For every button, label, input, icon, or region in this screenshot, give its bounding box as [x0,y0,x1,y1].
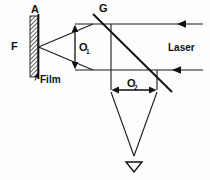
cone-apex-arrowhead [126,162,142,172]
o2-left-arrowhead [112,87,120,94]
upper-beam-arrowhead [177,20,186,27]
label-f: F [11,40,18,52]
film-hatched-bar [30,16,38,77]
label-a: A [31,3,39,15]
film-plate-group [30,14,38,79]
label-o2-subscript: 2 [134,84,138,91]
optics-ray-diagram-canvas: A F Film G Laser O 1 O 2 [0,0,210,180]
converging-cone-group [111,92,157,172]
cone-right-ray [134,92,157,156]
o1-up-arrowhead [72,25,78,33]
dimension-o1-group [72,25,78,70]
label-o1-subscript: 1 [86,48,90,55]
cone-left-ray [111,92,134,156]
o2-right-arrowhead [149,87,157,94]
label-g: G [99,2,108,14]
label-film: Film [40,74,61,85]
optics-diagram: A F Film G Laser O 1 O 2 [0,0,210,180]
label-laser: Laser [168,42,195,53]
lower-beam-arrowhead [172,66,181,73]
o1-down-arrowhead [72,62,78,70]
